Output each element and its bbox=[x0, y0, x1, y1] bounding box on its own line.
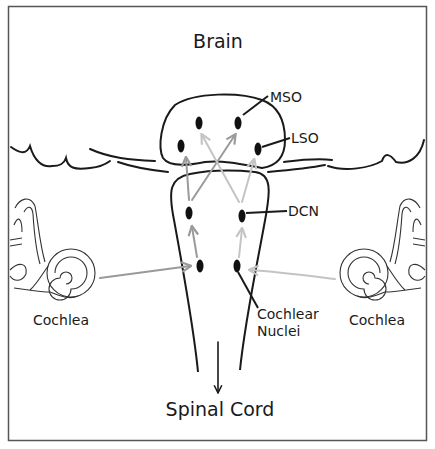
arrow-right-cochlea-to-cn bbox=[250, 270, 335, 279]
lso-right-dot bbox=[255, 143, 262, 156]
cochlea-right-label: Cochlea bbox=[349, 312, 405, 328]
dcn-right-dot bbox=[239, 210, 246, 223]
arrow-left-cross-mso bbox=[192, 135, 235, 200]
spinal-cord-label: Spinal Cord bbox=[166, 398, 275, 420]
nuclei bbox=[178, 117, 262, 273]
cn-left-dot bbox=[197, 260, 204, 273]
mso-left-dot bbox=[196, 117, 203, 130]
left-cochlea-icon bbox=[10, 199, 95, 300]
right-cochlea-icon bbox=[340, 199, 425, 300]
brainstem-outline bbox=[171, 171, 269, 372]
arrow-left-cn-to-dcn bbox=[192, 227, 197, 257]
pathway-arrows bbox=[100, 135, 335, 392]
dcn-leader bbox=[246, 211, 287, 213]
superior-olive-region bbox=[161, 95, 285, 168]
leader-lines bbox=[238, 96, 290, 308]
arrow-right-cn-to-dcn bbox=[239, 229, 242, 257]
lso-label: LSO bbox=[291, 130, 319, 146]
arrow-right-cross-mso bbox=[202, 135, 239, 202]
lso-left-dot bbox=[178, 140, 185, 153]
dcn-label: DCN bbox=[288, 203, 319, 219]
cortex-outline-left bbox=[11, 146, 168, 172]
arrow-left-cochlea-to-cn bbox=[100, 266, 190, 278]
cochlea-left-label: Cochlea bbox=[33, 312, 89, 328]
dcn-left-dot bbox=[186, 207, 193, 220]
mso-right-dot bbox=[235, 117, 242, 130]
cn-right-dot bbox=[234, 260, 241, 273]
mso-label: MSO bbox=[270, 89, 302, 105]
brain-title: Brain bbox=[193, 30, 243, 52]
cochlear-nuclei-label-1: Cochlear bbox=[257, 306, 319, 322]
cochlear-nuclei-label-2: Nuclei bbox=[257, 323, 300, 339]
auditory-pathway-diagram: Brain bbox=[0, 0, 435, 449]
